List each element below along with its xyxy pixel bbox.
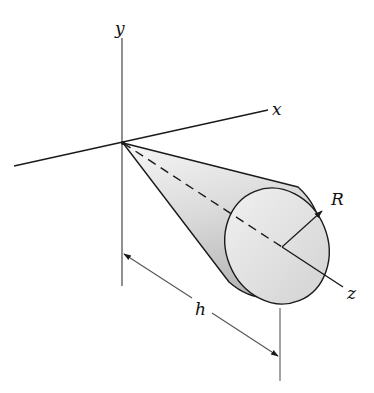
cone-diagram: y x z R h <box>0 0 374 393</box>
radius-label: R <box>330 189 344 209</box>
x-axis-label: x <box>272 99 282 119</box>
z-axis-label: z <box>346 283 357 303</box>
height-dimension-arrow-left <box>124 254 192 298</box>
origin-point <box>121 141 125 145</box>
y-axis-label: y <box>114 18 125 38</box>
height-dimension-arrow-right <box>212 313 278 356</box>
height-label: h <box>195 299 206 319</box>
